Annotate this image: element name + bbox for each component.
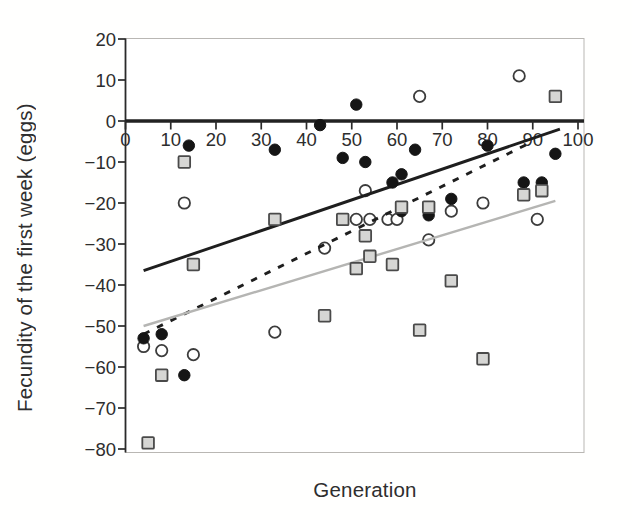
- marker-gray-square: [360, 230, 372, 242]
- y-axis-title: Fecundity of the first week (eggs): [13, 58, 49, 458]
- scatter-plot: 20100−10−20−30−40−50−60−70−8001020304050…: [0, 0, 632, 520]
- marker-gray-square: [364, 251, 376, 263]
- marker-filled-circle: [409, 144, 420, 155]
- marker-filled-circle: [482, 140, 493, 151]
- y-tick-label: −60: [85, 357, 116, 378]
- x-tick-label: 20: [206, 129, 227, 150]
- y-tick-label: −50: [85, 316, 116, 337]
- y-tick-label: −80: [85, 439, 116, 460]
- marker-filled-circle: [314, 119, 325, 130]
- marker-gray-square: [423, 201, 435, 213]
- marker-gray-square: [477, 353, 489, 365]
- marker-gray-square: [414, 324, 426, 336]
- marker-gray-square: [536, 185, 548, 197]
- x-tick-label: 0: [120, 129, 130, 150]
- marker-filled-circle: [446, 193, 457, 204]
- marker-gray-square: [179, 156, 191, 168]
- y-tick-label: −10: [85, 152, 116, 173]
- marker-gray-square: [446, 275, 458, 287]
- x-tick-label: 70: [432, 129, 453, 150]
- marker-gray-square: [337, 214, 349, 226]
- x-tick-label: 10: [160, 129, 181, 150]
- marker-gray-square: [269, 214, 281, 226]
- marker-filled-circle: [269, 144, 280, 155]
- marker-open-circle: [532, 214, 543, 225]
- y-tick-label: 10: [95, 70, 116, 91]
- x-axis-title: Generation: [135, 478, 595, 502]
- marker-filled-circle: [183, 140, 194, 151]
- y-tick-label: −30: [85, 234, 116, 255]
- marker-open-circle: [446, 206, 457, 217]
- y-tick-label: −70: [85, 398, 116, 419]
- marker-open-circle: [156, 345, 167, 356]
- y-tick-label: −40: [85, 275, 116, 296]
- marker-open-circle: [179, 197, 190, 208]
- marker-open-circle: [414, 91, 425, 102]
- marker-filled-circle: [550, 148, 561, 159]
- marker-gray-square: [550, 91, 562, 103]
- y-tick-label: −20: [85, 193, 116, 214]
- scatter-figure: Fecundity of the first week (eggs) 20100…: [0, 0, 632, 520]
- marker-gray-square: [396, 201, 408, 213]
- marker-gray-square: [518, 189, 530, 201]
- marker-open-circle: [351, 214, 362, 225]
- x-tick-label: 50: [341, 129, 362, 150]
- marker-open-circle: [269, 326, 280, 337]
- x-tick-label: 30: [251, 129, 272, 150]
- marker-filled-circle: [387, 177, 398, 188]
- marker-gray-square: [319, 310, 331, 322]
- marker-open-circle: [513, 70, 524, 81]
- x-tick-label: 100: [563, 129, 594, 150]
- marker-gray-square: [188, 259, 200, 271]
- marker-filled-circle: [396, 169, 407, 180]
- x-tick-label: 60: [387, 129, 408, 150]
- x-tick-label: 40: [296, 129, 317, 150]
- y-tick-label: 0: [106, 111, 116, 132]
- marker-filled-circle: [351, 99, 362, 110]
- marker-gray-square: [350, 263, 362, 275]
- marker-open-circle: [477, 197, 488, 208]
- marker-filled-circle: [337, 152, 348, 163]
- marker-filled-circle: [360, 156, 371, 167]
- marker-filled-circle: [138, 333, 149, 344]
- y-tick-label: 20: [95, 29, 116, 50]
- marker-gray-square: [156, 369, 168, 381]
- marker-gray-square: [387, 259, 399, 271]
- marker-gray-square: [142, 437, 154, 449]
- marker-filled-circle: [518, 177, 529, 188]
- marker-filled-circle: [179, 370, 190, 381]
- marker-open-circle: [188, 349, 199, 360]
- marker-filled-circle: [156, 329, 167, 340]
